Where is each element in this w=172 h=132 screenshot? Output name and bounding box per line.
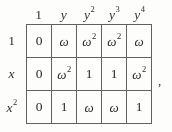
table-cell-r1-c4: ω2: [127, 58, 151, 90]
term-base: ω: [82, 34, 91, 49]
term-base: ω: [109, 100, 118, 115]
table-cell-r2-c3: ω: [102, 91, 127, 123]
table-cell-r1-c3: 1: [102, 58, 127, 90]
column-header-1: y: [51, 1, 76, 23]
math-term: 1: [35, 8, 42, 22]
term-base: y: [84, 7, 90, 22]
row-header-2: x2: [0, 91, 26, 124]
term-base: 0: [36, 66, 43, 81]
term-exponent: 2: [142, 64, 146, 74]
column-header-3: y3: [102, 1, 127, 23]
term-base: 0: [36, 33, 43, 48]
math-term: y3: [109, 8, 119, 22]
column-header-row: 1yy2y3y4: [26, 1, 152, 23]
math-term: ω2: [107, 35, 120, 48]
term-base: 1: [86, 66, 93, 81]
term-base: 1: [8, 33, 15, 48]
table-cell-r0-c1: ω: [52, 25, 77, 57]
math-term: 1: [136, 100, 143, 114]
math-term: ω2: [57, 68, 70, 81]
math-term: ω: [84, 101, 93, 114]
term-base: 1: [61, 99, 68, 114]
term-base: 1: [136, 99, 143, 114]
table-cell-r2-c0: 0: [27, 91, 52, 123]
row-header-0: 1: [0, 24, 26, 57]
term-exponent: 2: [90, 4, 94, 14]
table-cell-r2-c4: 1: [127, 91, 151, 123]
term-exponent: 3: [116, 4, 120, 14]
term-exponent: 2: [92, 31, 96, 41]
math-term: y4: [134, 8, 144, 22]
table-row: 0ω211ω2: [27, 58, 151, 91]
math-term: x2: [6, 101, 16, 115]
term-base: x: [6, 100, 12, 115]
term-base: ω: [107, 34, 116, 49]
term-base: ω: [57, 67, 66, 82]
table-cell-r1-c1: ω2: [52, 58, 77, 90]
math-term: 1: [86, 67, 93, 81]
term-base: ω: [132, 67, 141, 82]
math-term: 1: [111, 67, 118, 81]
term-base: 0: [36, 99, 43, 114]
math-term: ω: [134, 35, 143, 48]
table-cell-r1-c2: 1: [77, 58, 102, 90]
term-exponent: 2: [67, 64, 71, 74]
math-term: 1: [8, 34, 15, 48]
term-base: y: [109, 7, 115, 22]
term-base: 1: [111, 66, 118, 81]
trailing-comma: ,: [158, 74, 161, 87]
column-header-2: y2: [76, 1, 101, 23]
math-term: ω2: [82, 35, 95, 48]
term-base: ω: [134, 34, 143, 49]
math-term: y2: [84, 8, 94, 22]
term-base: y: [134, 7, 140, 22]
math-term: 0: [36, 34, 43, 48]
math-table-figure: 1yy2y3y4 1xx2 0ωω2ω2ω0ω211ω201ωω1 ,: [0, 0, 172, 132]
term-exponent: 4: [141, 4, 145, 14]
term-base: y: [61, 7, 67, 22]
table-cell-r0-c4: ω: [127, 25, 151, 57]
math-term: y: [61, 8, 67, 22]
math-term: ω2: [132, 68, 145, 81]
term-base: 1: [35, 7, 42, 22]
term-base: ω: [59, 34, 68, 49]
row-header-column: 1xx2: [0, 24, 26, 124]
term-exponent: 2: [13, 97, 17, 107]
table-row: 01ωω1: [27, 91, 151, 123]
term-base: x: [9, 66, 15, 81]
table-row: 0ωω2ω2ω: [27, 25, 151, 58]
term-exponent: 2: [117, 31, 121, 41]
table-grid: 0ωω2ω2ω0ω211ω201ωω1: [26, 24, 152, 124]
column-header-4: y4: [127, 1, 152, 23]
column-header-0: 1: [26, 1, 51, 23]
math-term: x: [9, 67, 15, 81]
math-term: 0: [36, 100, 43, 114]
table-cell-r0-c0: 0: [27, 25, 52, 57]
table-cell-r2-c1: 1: [52, 91, 77, 123]
math-term: ω: [59, 35, 68, 48]
table-cell-r0-c3: ω2: [102, 25, 127, 57]
row-header-1: x: [0, 57, 26, 90]
math-term: 1: [61, 100, 68, 114]
math-term: 0: [36, 67, 43, 81]
term-base: ω: [84, 100, 93, 115]
math-term: ω: [109, 101, 118, 114]
table-cell-r1-c0: 0: [27, 58, 52, 90]
table-cell-r2-c2: ω: [77, 91, 102, 123]
table-cell-r0-c2: ω2: [77, 25, 102, 57]
